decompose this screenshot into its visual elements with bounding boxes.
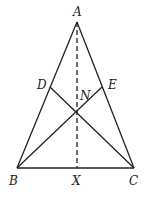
- segment-cd: [50, 87, 134, 168]
- label-n: N: [79, 89, 91, 103]
- side-ab: [17, 22, 77, 168]
- label-a: A: [72, 5, 82, 19]
- label-c: C: [129, 174, 138, 188]
- label-b: B: [8, 174, 18, 188]
- label-x: X: [71, 174, 81, 188]
- triangle-diagram: A B C D E N X: [0, 0, 149, 198]
- label-e: E: [107, 78, 117, 92]
- label-d: D: [36, 78, 47, 92]
